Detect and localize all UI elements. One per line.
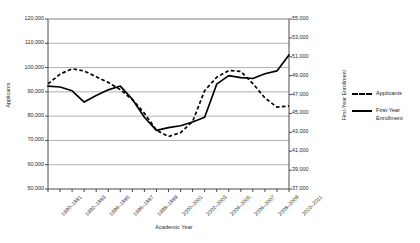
legend-label-first-year-enrollment: First-Year Enrollment <box>376 107 418 122</box>
legend-label-applicants: Applicants <box>376 90 402 98</box>
legend-item-first-year-enrollment: First-Year Enrollment <box>352 107 418 122</box>
legend-solid-line-icon <box>352 107 372 115</box>
chart-container: Applicants First-Year Enrollment Academi… <box>0 0 420 243</box>
chart-legend: Applicants First-Year Enrollment <box>352 90 418 131</box>
legend-dashed-line-icon <box>352 90 372 98</box>
legend-item-applicants: Applicants <box>352 90 418 98</box>
series-line-first-year-enrollment <box>48 55 289 131</box>
